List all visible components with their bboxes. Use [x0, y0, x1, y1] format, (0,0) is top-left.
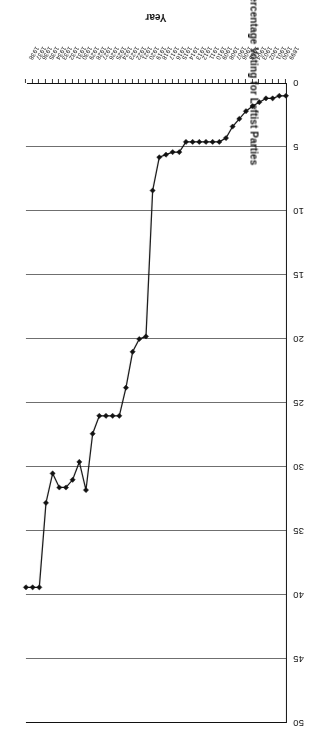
data-point-marker [37, 585, 42, 590]
data-point-marker [150, 188, 155, 193]
y-axis-tick-label: 40 [293, 590, 326, 601]
y-axis-tick-label: 50 [293, 718, 326, 729]
data-point-marker [23, 585, 28, 590]
data-point-marker [163, 152, 168, 157]
y-axis-tick-label: 10 [293, 206, 326, 217]
data-point-marker [57, 485, 62, 490]
data-point-marker [157, 155, 162, 160]
data-point-marker [83, 487, 88, 492]
data-point-marker [130, 349, 135, 354]
data-point-marker [217, 139, 222, 144]
y-axis-tick-label: 45 [293, 654, 326, 665]
data-point-marker [263, 96, 268, 101]
line-chart-figure: 05101520253035404550 1899190019011902190… [0, 0, 332, 750]
y-axis-tick-label: 35 [293, 526, 326, 537]
data-point-marker [50, 471, 55, 476]
y-axis-tick-label: 0 [293, 78, 326, 89]
data-point-marker [210, 139, 215, 144]
data-point-marker [97, 413, 102, 418]
data-point-marker [103, 413, 108, 418]
data-point-marker [170, 150, 175, 155]
y-axis-tick-label: 15 [293, 270, 326, 281]
data-point-marker [277, 93, 282, 98]
data-point-marker [270, 96, 275, 101]
data-point-marker [283, 93, 288, 98]
series-line-leftist-vote [26, 96, 286, 588]
data-point-marker [123, 385, 128, 390]
data-point-marker [143, 334, 148, 339]
rotated-figure-container: 05101520253035404550 1899190019011902190… [0, 0, 332, 750]
data-point-marker [197, 139, 202, 144]
data-point-marker [117, 413, 122, 418]
data-point-marker [30, 585, 35, 590]
y-axis-title: Percentage Voting for Leftist Parties [249, 0, 260, 398]
plot-area: 05101520253035404550 1899190019011902190… [27, 83, 287, 723]
y-axis-tick-label: 30 [293, 462, 326, 473]
x-axis-title: Year [26, 12, 286, 23]
data-point-marker [203, 139, 208, 144]
data-point-marker [77, 459, 82, 464]
data-point-marker [137, 336, 142, 341]
y-axis-tick-label: 25 [293, 398, 326, 409]
data-point-marker [43, 500, 48, 505]
data-point-marker [110, 413, 115, 418]
y-axis-tick-label: 5 [293, 142, 326, 153]
data-point-marker [90, 431, 95, 436]
y-axis-tick-label: 20 [293, 334, 326, 345]
data-series-layer [26, 83, 286, 723]
data-point-marker [223, 135, 228, 140]
data-point-marker [190, 139, 195, 144]
